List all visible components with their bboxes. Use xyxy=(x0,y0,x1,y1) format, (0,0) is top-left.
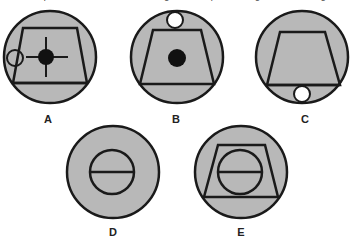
figure-label-c: C xyxy=(301,113,309,125)
figure-b[interactable] xyxy=(131,11,223,103)
figure-label-b: B xyxy=(172,113,180,125)
figure-label-e: E xyxy=(237,226,244,238)
figure-d[interactable] xyxy=(67,126,159,218)
figure-label-a: A xyxy=(44,113,52,125)
figure-e[interactable] xyxy=(195,126,287,218)
figure-label-d: D xyxy=(109,226,117,238)
figure-c[interactable] xyxy=(256,11,348,103)
figure-a[interactable] xyxy=(4,11,96,103)
